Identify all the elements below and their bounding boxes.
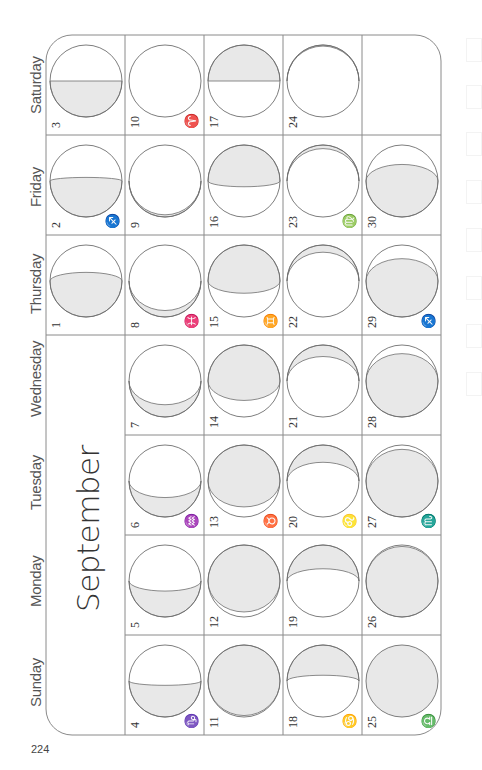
day-number: 2 [49,222,63,228]
moon-shadow [50,81,122,117]
day-number: 21 [286,416,300,428]
zodiac-sign-icon: ♎ [421,713,436,729]
moon-phase-icon [287,145,359,217]
moon-shadow [129,381,201,417]
zodiac-sign-icon: ♐ [421,313,436,329]
moon-shadow [366,259,438,317]
day-cell: 22 [286,245,359,328]
day-number: 9 [128,222,142,228]
day-number: 11 [207,716,221,728]
moon-shadow [50,177,122,217]
moon-shadow [287,145,359,181]
day-number: 17 [207,116,221,128]
moon-phase-icon [129,145,201,217]
moon-phase-icon [287,45,359,117]
day-cell: 1 [49,245,122,328]
day-number: 15 [207,316,221,328]
day-number: 18 [286,716,300,728]
moon-shadow [287,345,359,381]
day-number: 7 [128,422,142,428]
zodiac-sign-icon: ♈ [184,113,199,129]
day-cell: 5 [128,545,201,628]
zodiac-sign-icon: ♑ [184,713,199,729]
day-cell: 10♈ [128,45,201,129]
day-number: 24 [286,116,300,128]
day-cell: 26 [365,545,438,628]
moon-shadow [208,345,280,400]
day-number: 29 [365,316,379,328]
day-cell: 20♌ [286,445,359,529]
zodiac-sign-icon: ♍ [342,213,357,229]
day-number: 25 [365,716,379,728]
day-number: 16 [207,216,221,228]
day-number: 5 [128,622,142,628]
moon-shadow [129,681,201,717]
zodiac-sign-icon: ♐ [105,213,120,229]
day-cell: 14 [207,345,280,428]
moon-shadow [129,581,201,617]
day-number: 28 [365,416,379,428]
moon-shadow [287,45,359,81]
day-number: 14 [207,416,221,428]
zodiac-sign-icon: ♌ [342,513,357,529]
moon-shadow [287,645,359,681]
day-number: 10 [128,116,142,128]
moon-shadow [50,272,122,317]
day-number: 4 [128,722,142,728]
day-cell: 24 [286,45,359,128]
zodiac-sign-icon: ♊ [263,313,278,329]
moon-shadow [287,445,359,481]
day-number: 3 [49,122,63,128]
day-number: 6 [128,522,142,528]
day-number: 26 [365,616,379,628]
day-cell: 17 [207,45,280,128]
day-cell: 18♋ [286,645,359,729]
day-number: 8 [128,322,142,328]
day-cell: 15♊ [207,245,280,329]
day-number: 30 [365,216,379,228]
day-cell: 23♍ [286,145,359,229]
zodiac-sign-icon: ♓ [184,313,199,329]
day-cell: 2♐ [49,145,122,229]
day-number: 12 [207,616,221,628]
day-cell: 16 [207,145,280,228]
moon-shadow [208,245,280,293]
day-number: 27 [365,516,379,528]
moon-phase-icon [287,245,359,317]
day-number: 19 [286,616,300,628]
day-cell: 11 [207,645,280,728]
zodiac-sign-icon: ♒ [184,513,199,529]
day-cell: 6♒ [128,445,201,529]
moon-shadow [208,45,280,81]
day-number: 23 [286,216,300,228]
day-cell: 7 [128,345,201,428]
day-cell: 25♎ [365,645,438,729]
day-cell: 3 [49,45,122,128]
moon-shadow [366,354,438,417]
moon-phase-icon [129,45,201,117]
day-cell: 13♉ [207,445,280,529]
day-cell: 8♓ [128,245,201,329]
moon-shadow [287,545,359,581]
day-cell: 19 [286,545,359,628]
moon-shadow [366,164,438,217]
day-cell: 29♐ [365,245,438,329]
moon-shadow [129,181,201,217]
moon-shadow [129,281,201,317]
moon-shadow [208,445,280,507]
day-cell: 21 [286,345,359,428]
day-cell: 27♏ [365,445,438,529]
day-cell: 9 [128,145,201,228]
day-number: 1 [49,322,63,328]
page-number: 224 [31,743,49,755]
moon-phase-icon [129,245,201,317]
moon-shadow [129,481,201,517]
moon-shadow [287,245,359,281]
day-number: 20 [286,516,300,528]
day-cell: 4♑ [128,645,201,729]
day-number: 13 [207,516,221,528]
day-cell: 30 [365,145,438,228]
day-number: 22 [286,316,300,328]
